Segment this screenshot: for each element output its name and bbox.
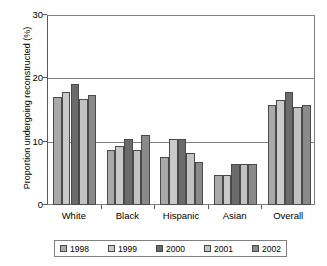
y-tick-mark	[43, 14, 47, 15]
bar-chart: Proportion undergoing reconstructed (%) …	[0, 0, 327, 266]
bar	[115, 146, 124, 205]
legend-label: 2002	[262, 244, 281, 254]
x-category-label: Overall	[261, 210, 315, 221]
legend-swatch-icon	[156, 245, 163, 252]
bar-group	[262, 16, 316, 205]
legend-item: 2000	[156, 244, 185, 254]
legend-item: 1999	[108, 244, 137, 254]
x-category-label: Black	[101, 210, 155, 221]
bar	[268, 105, 277, 205]
bar	[62, 92, 71, 205]
x-tick-mark	[154, 205, 155, 209]
legend-swatch-icon	[60, 245, 67, 252]
bar	[293, 107, 302, 205]
bar	[79, 99, 88, 205]
legend-label: 2001	[214, 244, 233, 254]
bar	[285, 92, 294, 205]
bar	[231, 164, 240, 205]
bar	[169, 139, 178, 205]
legend-swatch-icon	[204, 245, 211, 252]
bar	[160, 157, 169, 206]
bar	[302, 105, 311, 205]
y-tick-label: 0	[3, 199, 43, 210]
bar	[214, 175, 223, 205]
y-tick-mark	[43, 141, 47, 142]
legend-label: 1999	[118, 244, 137, 254]
y-tick-label: 20	[3, 72, 43, 83]
bar	[195, 162, 204, 205]
bar	[141, 135, 150, 205]
legend-label: 1998	[70, 244, 89, 254]
legend-label: 2000	[166, 244, 185, 254]
y-tick-mark	[43, 204, 47, 205]
bar-group	[48, 16, 102, 205]
legend-item: 2001	[204, 244, 233, 254]
bar	[223, 175, 232, 205]
x-category-label: Hispanic	[154, 210, 208, 221]
bar	[124, 139, 133, 205]
bar	[276, 100, 285, 205]
bar	[133, 150, 142, 205]
bar	[248, 164, 257, 205]
x-tick-mark	[261, 205, 262, 209]
y-tick-label: 10	[3, 136, 43, 147]
bar	[178, 139, 187, 205]
bar	[107, 150, 116, 205]
y-tick-label: 30	[3, 9, 43, 20]
y-axis-title: Proportion undergoing reconstructed (%)	[22, 8, 32, 208]
bar	[71, 84, 80, 205]
x-tick-mark	[208, 205, 209, 209]
bar	[53, 97, 62, 205]
legend-item: 2002	[252, 244, 281, 254]
x-tick-mark	[101, 205, 102, 209]
x-category-label: Asian	[208, 210, 262, 221]
y-tick-mark	[43, 77, 47, 78]
bar	[186, 153, 195, 205]
bar-group	[209, 16, 263, 205]
bar	[240, 164, 249, 205]
legend-swatch-icon	[108, 245, 115, 252]
bar-group	[155, 16, 209, 205]
bars-layer	[48, 16, 314, 205]
legend-item: 1998	[60, 244, 89, 254]
chart-legend: 19981999200020012002	[54, 240, 287, 257]
x-category-label: White	[47, 210, 101, 221]
legend-swatch-icon	[252, 245, 259, 252]
bar	[88, 95, 97, 205]
bar-group	[102, 16, 156, 205]
